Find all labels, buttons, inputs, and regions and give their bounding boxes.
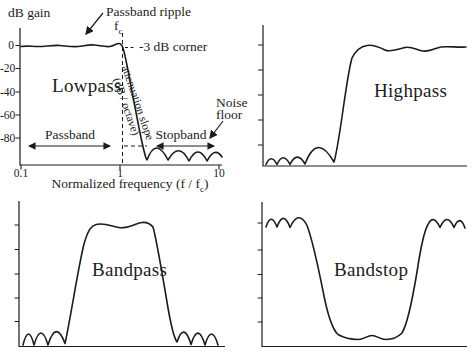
- passband-ripple-label: Passband ripple: [106, 5, 191, 19]
- y-tick--60: -60: [0, 109, 14, 122]
- stopband-label: Stopband: [150, 128, 212, 142]
- noise-floor-label: Noise floor: [216, 97, 248, 120]
- highpass-title: Highpass: [374, 81, 447, 101]
- passband-ripple-arrow: [86, 13, 103, 34]
- x-axis-title-prefix: Normalized frequency (f / f: [52, 176, 200, 191]
- passband-label: Passband: [40, 128, 100, 142]
- cutoff-frequency-sub: c: [119, 26, 123, 36]
- y-tick-0: 0: [0, 39, 14, 52]
- y-tick--20: -20: [0, 62, 14, 75]
- corner-label: -3 dB corner: [139, 40, 207, 54]
- noise-floor-line2: floor: [216, 109, 248, 121]
- x-axis-title-suffix: ): [204, 176, 209, 191]
- bandpass-curve: [23, 222, 218, 345]
- bandpass-title: Bandpass: [92, 260, 167, 280]
- filter-responses-figure: dB gain Passband ripple fc -3 dB corner …: [0, 0, 475, 356]
- y-tick--80: -80: [0, 132, 14, 145]
- x-axis-title: Normalized frequency (f / fc): [50, 177, 210, 191]
- cutoff-frequency-label: fc: [114, 19, 123, 33]
- bandstop-title: Bandstop: [334, 260, 408, 280]
- x-tick-0p1: 0.1: [10, 167, 32, 180]
- bandpass-axis-ticks: [15, 225, 20, 322]
- highpass-axis-ticks: [258, 45, 263, 145]
- x-tick-10: 10: [208, 167, 230, 180]
- bandstop-axis-ticks: [258, 223, 263, 322]
- y-axis-title: dB gain: [8, 6, 50, 20]
- y-tick--40: -40: [0, 86, 14, 99]
- highpass-curve: [266, 45, 466, 164]
- lowpass-axis-ticks: [16, 46, 220, 170]
